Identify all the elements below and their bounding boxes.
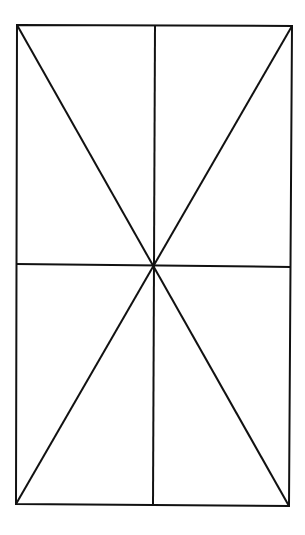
geometric-diagram (0, 0, 305, 535)
